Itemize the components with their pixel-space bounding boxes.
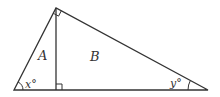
angle-arc-left [18,82,23,90]
angle-x-label: x° [25,78,37,91]
region-b-label: B [89,49,100,64]
right-angle-marker-foot [56,84,62,90]
region-a-label: A [37,48,47,63]
triangle-diagram: A B x° y° [0,0,220,97]
angle-y-label: y° [169,77,182,90]
angle-arc-right [188,80,190,90]
